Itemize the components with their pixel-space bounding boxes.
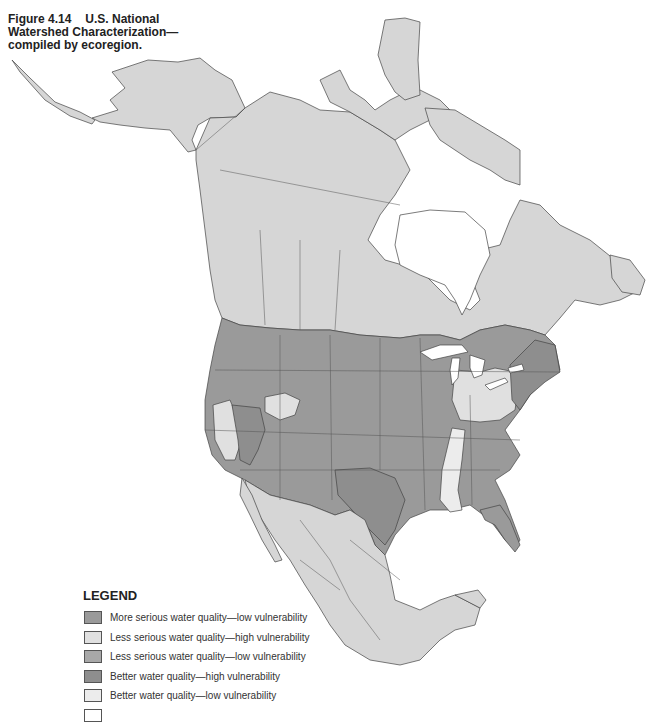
- legend-item: More serious water quality—low vulnerabi…: [84, 608, 384, 628]
- legend-label: Better water quality—high vulnerability: [110, 671, 280, 682]
- legend-swatch: [84, 689, 102, 702]
- region-ohio-valley: [452, 368, 518, 422]
- legend-item: [84, 706, 384, 725]
- region-aleutians: [12, 60, 95, 124]
- legend-item: Better water quality—high vulnerability: [84, 667, 384, 687]
- legend: LEGEND More serious water quality—low vu…: [84, 588, 384, 725]
- region-baffin: [425, 108, 520, 185]
- legend-label: More serious water quality—low vulnerabi…: [110, 612, 307, 623]
- legend-swatch: [84, 670, 102, 683]
- legend-swatch: [84, 631, 102, 644]
- legend-item: Less serious water quality—high vulnerab…: [84, 628, 384, 648]
- legend-swatch: [84, 650, 102, 663]
- legend-title: LEGEND: [83, 588, 384, 603]
- legend-label: Less serious water quality—low vulnerabi…: [110, 651, 306, 662]
- legend-item: Better water quality—low vulnerability: [84, 686, 384, 706]
- region-ellesmere: [378, 18, 420, 100]
- legend-item: Less serious water quality—low vulnerabi…: [84, 647, 384, 667]
- legend-swatch: [84, 611, 102, 624]
- legend-label: Better water quality—low vulnerability: [110, 690, 276, 701]
- legend-label: Less serious water quality—high vulnerab…: [110, 632, 310, 643]
- legend-swatch: [84, 709, 102, 722]
